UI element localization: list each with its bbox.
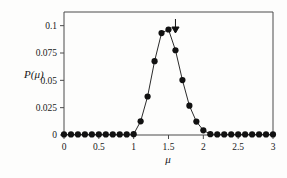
data-point-marker — [89, 131, 95, 137]
y-axis-tick-labels: 00.0250.050.0750.1 — [36, 21, 58, 140]
x-tick-label: 2 — [201, 142, 206, 152]
data-point-marker — [270, 131, 276, 137]
data-point-marker — [235, 131, 241, 137]
x-tick-label: 1 — [131, 142, 136, 152]
x-tick-label: 0.5 — [93, 142, 105, 152]
data-point-marker — [103, 131, 109, 137]
data-point-marker — [68, 131, 74, 137]
data-point-marker — [138, 118, 144, 124]
arrow-down-icon — [172, 19, 179, 33]
y-tick-label: 0 — [52, 130, 57, 140]
data-point-marker — [145, 93, 151, 99]
data-point-marker — [249, 131, 255, 137]
data-point-marker — [131, 131, 137, 137]
y-axis-label: P(μ) — [23, 68, 44, 81]
data-point-marker — [179, 77, 185, 83]
data-point-marker — [242, 131, 248, 137]
data-point-marker — [200, 127, 206, 133]
data-point-marker — [110, 131, 116, 137]
data-point-marker — [96, 131, 102, 137]
data-point-marker — [61, 131, 67, 137]
data-point-marker — [165, 26, 171, 32]
plot-svg: 00.0250.050.0750.1 00.511.522.53 P(μ) μ — [0, 0, 287, 178]
x-axis-tick-labels: 00.511.522.53 — [62, 142, 276, 152]
x-axis-label: μ — [164, 153, 171, 165]
data-point-marker — [151, 58, 157, 64]
data-point-marker — [124, 131, 130, 137]
x-tick-label: 2.5 — [232, 142, 244, 152]
data-point-marker — [75, 131, 81, 137]
y-tick-label: 0.025 — [36, 103, 58, 113]
x-tick-label: 1.5 — [163, 142, 175, 152]
data-series-line — [64, 29, 273, 134]
chart-figure: 00.0250.050.0750.1 00.511.522.53 P(μ) μ — [0, 0, 287, 178]
y-axis-ticks — [60, 26, 64, 135]
data-point-marker — [186, 103, 192, 109]
x-tick-label: 3 — [271, 142, 276, 152]
data-point-marker — [158, 30, 164, 36]
y-tick-label: 0.1 — [45, 21, 57, 31]
data-point-marker — [228, 131, 234, 137]
data-point-marker — [193, 118, 199, 124]
data-point-marker — [256, 131, 262, 137]
data-point-marker — [172, 47, 178, 53]
data-point-marker — [214, 131, 220, 137]
x-tick-label: 0 — [62, 142, 67, 152]
data-point-marker — [82, 131, 88, 137]
data-series-markers — [61, 26, 276, 137]
x-axis-ticks — [64, 135, 273, 139]
data-point-marker — [207, 131, 213, 137]
data-point-marker — [263, 131, 269, 137]
y-tick-label: 0.075 — [36, 48, 58, 58]
data-point-marker — [221, 131, 227, 137]
data-point-marker — [117, 131, 123, 137]
